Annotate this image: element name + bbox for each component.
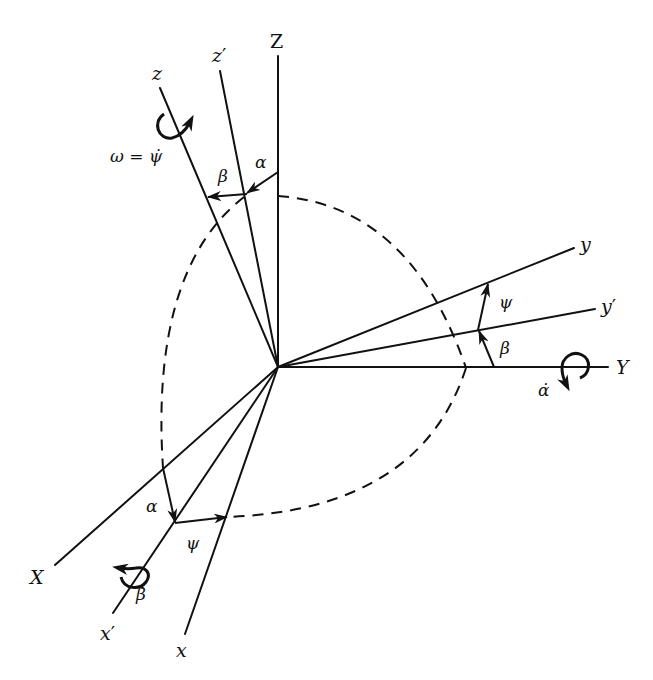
alpha-arrow-bottom xyxy=(163,468,175,522)
label-beta-top: β xyxy=(217,166,228,186)
label-x-prime: x′ xyxy=(100,622,115,644)
label-y-prime: y′ xyxy=(600,295,616,317)
label-Z: Z xyxy=(270,30,283,52)
axis-z xyxy=(160,88,278,367)
label-z: z xyxy=(151,62,163,84)
label-X: X xyxy=(28,566,45,588)
label-alpha-bottom: α xyxy=(146,496,158,516)
rate-labels: ω = ψ̇ α̇ β̇ xyxy=(110,146,550,604)
angle-labels: α β ψ β α ψ xyxy=(146,152,513,553)
axis-y xyxy=(278,248,574,367)
label-beta-right: β xyxy=(499,338,510,358)
label-omega-psidot: ω = ψ̇ xyxy=(110,146,163,166)
label-Y: Y xyxy=(616,356,631,378)
arc-left xyxy=(161,197,244,468)
label-y: y xyxy=(579,233,591,255)
rotation-arrow-z-icon xyxy=(158,114,190,138)
psi-arrow-right xyxy=(478,284,488,330)
label-beta-dot: β̇ xyxy=(135,584,146,604)
beta-arrow-right xyxy=(479,331,494,367)
label-psi-bottom: ψ xyxy=(186,533,200,553)
label-alpha-dot: α̇ xyxy=(538,380,550,400)
label-z-prime: z′ xyxy=(211,44,226,66)
alpha-arrow-top xyxy=(247,172,278,193)
arc-top-right xyxy=(278,196,466,368)
axis-z-prime xyxy=(220,71,278,367)
psi-arrow-bottom xyxy=(175,517,227,523)
label-x: x xyxy=(176,639,187,661)
rotation-indicators xyxy=(120,114,589,587)
beta-arrow-top xyxy=(208,194,247,197)
dashed-arcs xyxy=(161,196,466,517)
axis-y-prime xyxy=(278,309,595,367)
axes-group xyxy=(55,56,608,634)
rotation-arrow-Y-icon xyxy=(562,353,589,384)
label-alpha-top: α xyxy=(255,152,267,172)
euler-angles-figure: Z z′ z Y y′ y X x′ x α β ψ β α ψ ω = ψ̇ … xyxy=(0,0,653,680)
label-psi-right: ψ xyxy=(499,292,513,312)
axis-x-prime xyxy=(113,367,278,613)
diagram-canvas: Z z′ z Y y′ y X x′ x α β ψ β α ψ ω = ψ̇ … xyxy=(0,0,653,680)
